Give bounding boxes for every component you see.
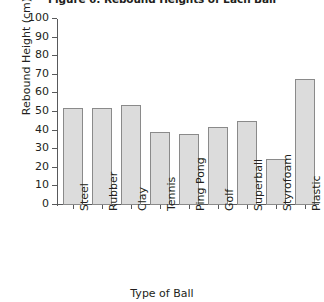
bar-chart: Figure 6: Rebound Heights of Each Ball R… [0,0,324,302]
bar-slot [208,19,228,205]
x-axis-category-label: Tennis [165,177,178,211]
x-axis-category-label: Plastic [310,175,323,211]
y-axis-tick-label: 80 [35,48,49,61]
y-axis-tick: 40 [52,130,57,131]
x-axis-category-label: Ping Pong [194,157,207,211]
y-axis-tick-label: 50 [35,104,49,117]
x-axis-category-label: Clay [136,187,149,211]
x-axis-tick [276,205,277,209]
y-axis-tick: 90 [52,37,57,38]
x-axis-category-label: Rubber [107,172,120,211]
x-axis-category-label: Steel [78,183,91,211]
y-axis-tick: 60 [52,92,57,93]
y-axis-tick: 100 [52,18,57,19]
x-axis-tick [305,205,306,209]
x-axis-tick [73,205,74,209]
chart-title: Figure 6: Rebound Heights of Each Ball [0,0,324,5]
y-axis-tick: 80 [52,55,57,56]
x-axis-category-label: Superball [252,159,265,211]
x-axis-tick [189,205,190,209]
y-axis-tick: 30 [52,148,57,149]
x-axis-tick [160,205,161,209]
y-axis-tick-label: 10 [35,178,49,191]
bar-slot [121,19,141,205]
x-axis-tick [247,205,248,209]
x-axis-category-label: Styrofoam [281,154,294,211]
x-axis-tick [131,205,132,209]
y-axis-tick: 50 [52,111,57,112]
y-axis-tick: 70 [52,74,57,75]
y-axis-tick-label: 60 [35,85,49,98]
plot-area: 0102030405060708090100 [57,19,319,205]
y-axis-tick-label: 20 [35,160,49,173]
y-axis-tick-label: 30 [35,141,49,154]
x-axis-tick [218,205,219,209]
y-axis-tick: 0 [52,204,57,205]
x-axis-title: Type of Ball [0,287,324,300]
y-axis-tick-label: 0 [42,197,49,210]
bars-layer [58,19,319,205]
y-axis-tick: 10 [52,185,57,186]
y-axis-tick-label: 90 [35,30,49,43]
y-axis-tick-label: 40 [35,123,49,136]
x-axis-category-label: Golf [223,189,236,211]
x-axis-tick [102,205,103,209]
y-axis-tick: 20 [52,167,57,168]
bar-slot [63,19,83,205]
y-axis-tick-label: 100 [28,11,49,24]
y-axis-tick-label: 70 [35,67,49,80]
